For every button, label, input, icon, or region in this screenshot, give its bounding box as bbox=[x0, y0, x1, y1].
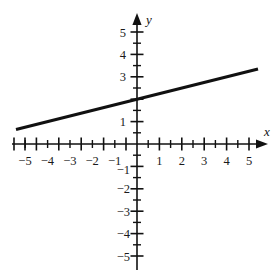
y-axis-label: y bbox=[144, 12, 152, 27]
y-tick-label: 5 bbox=[120, 26, 126, 40]
y-tick-label: 4 bbox=[120, 48, 127, 62]
y-axis-arrowhead bbox=[132, 13, 141, 25]
x-tick-label: −4 bbox=[41, 154, 55, 168]
x-tick-label: 2 bbox=[179, 154, 185, 168]
x-tick-label: 1 bbox=[156, 154, 162, 168]
x-tick-label: −5 bbox=[18, 154, 31, 168]
coordinate-plane: −5 −4 −3 −2 −1 1 2 3 4 5 5 4 3 1 −1 −2 −… bbox=[0, 0, 278, 279]
x-axis-arrowhead bbox=[256, 139, 268, 148]
axes-group bbox=[12, 13, 268, 270]
x-tick-label: −2 bbox=[86, 154, 99, 168]
x-tick-label: 3 bbox=[201, 154, 207, 168]
y-tick-label: −1 bbox=[117, 163, 130, 177]
x-axis-label: x bbox=[263, 124, 270, 139]
y-tick-label: 1 bbox=[120, 115, 126, 129]
graph-figure: −5 −4 −3 −2 −1 1 2 3 4 5 5 4 3 1 −1 −2 −… bbox=[0, 0, 278, 279]
x-tick-label: 5 bbox=[246, 154, 252, 168]
x-tick-label: −3 bbox=[63, 154, 76, 168]
y-tick-label: −3 bbox=[117, 205, 130, 219]
y-tick-label: −2 bbox=[117, 182, 130, 196]
x-tick-label: 4 bbox=[223, 154, 230, 168]
y-tick-label: 3 bbox=[120, 70, 126, 84]
y-tick-label: −4 bbox=[117, 227, 131, 241]
y-tick-label: −5 bbox=[117, 250, 130, 264]
